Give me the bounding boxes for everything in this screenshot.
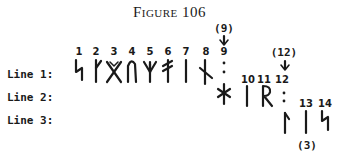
down-arrow-icon-12 bbox=[281, 61, 289, 70]
rune-4-ur-icon bbox=[128, 61, 136, 82]
rune-14-s-icon bbox=[322, 111, 328, 130]
rune-laguz-icon bbox=[285, 113, 289, 133]
rune-3-gebo-icon bbox=[107, 62, 121, 82]
rune-hagall-star-icon bbox=[218, 84, 230, 104]
rune-2-kaun-icon bbox=[96, 60, 101, 82]
rune-8-nauthiz-icon bbox=[200, 60, 212, 84]
rune-9-divider-icon bbox=[223, 62, 226, 74]
down-arrow-icon-9 bbox=[220, 36, 228, 45]
rune-inscription bbox=[0, 0, 339, 160]
rune-5-algiz-icon bbox=[144, 62, 156, 82]
rune-6-ansuz-icon bbox=[163, 60, 172, 82]
rune-1-s-icon bbox=[76, 60, 82, 80]
rune-12-divider-icon bbox=[283, 92, 286, 103]
rune-11-reid-icon bbox=[263, 86, 272, 106]
